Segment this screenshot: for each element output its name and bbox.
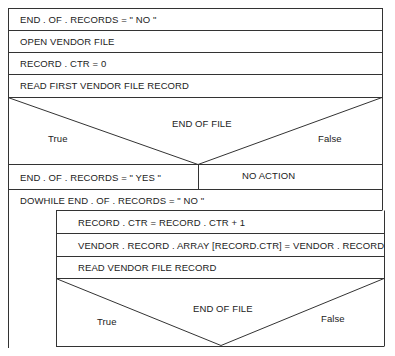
decision1-true-action: END . OF . RECORDS = " YES " [20,172,161,183]
step-init-end-of-records: END . OF . RECORDS = " NO " [20,14,156,25]
decision1-condition: END OF FILE [172,118,232,129]
decision1-false-action: NO ACTION [242,170,295,181]
loop-step-read-record: READ VENDOR FILE RECORD [78,262,217,273]
step-init-record-ctr: RECORD . CTR = 0 [20,58,106,69]
decision2-condition: END OF FILE [193,303,253,314]
decision1-false-label: False [318,133,342,144]
loop-header: DOWHILE END . OF . RECORDS = " NO " [20,195,204,206]
step-open-vendor-file: OPEN VENDOR FILE [20,36,115,47]
decision2-true-label: True [97,316,117,327]
loop-step-increment-ctr: RECORD . CTR = RECORD . CTR + 1 [78,217,245,228]
loop-step-store-record: VENDOR . RECORD . ARRAY [RECORD.CTR] = V… [78,240,384,251]
step-read-first-record: READ FIRST VENDOR FILE RECORD [20,80,189,91]
decision2-false-label: False [321,313,345,324]
decision1-true-label: True [48,133,68,144]
